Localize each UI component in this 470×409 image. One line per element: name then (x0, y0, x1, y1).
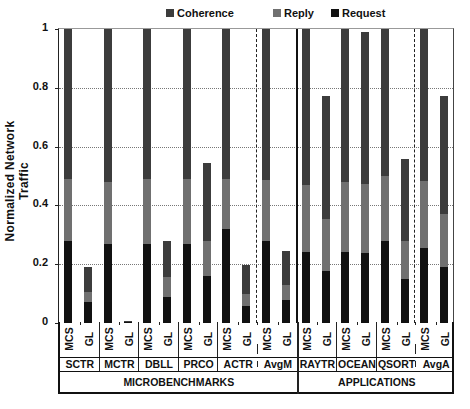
group-divider (415, 322, 416, 325)
segment-reply (341, 182, 349, 253)
segment-coherence (420, 29, 428, 181)
segment-coherence (341, 29, 349, 182)
segment-coherence (183, 29, 191, 179)
y-tick-label: 0 (22, 315, 48, 327)
segment-request (282, 300, 290, 323)
segment-reply (84, 292, 92, 302)
segment-coherence (401, 159, 409, 240)
segment-reply (440, 214, 448, 267)
bar-label-gl: GL (321, 322, 333, 356)
segment-reply (163, 277, 171, 296)
legend-item-coherence: Coherence (166, 6, 234, 20)
bar-actr-gl (242, 29, 250, 323)
bar-avga-gl (440, 29, 448, 323)
segment-request (64, 241, 72, 323)
bar-mctr-gl (124, 29, 132, 323)
bar-label-gl: GL (400, 322, 412, 356)
legend-swatch-icon (273, 9, 281, 17)
segment-request (440, 267, 448, 323)
y-tick-label: 0.6 (22, 139, 48, 151)
bar-tick (199, 322, 200, 325)
bar-raytr-mcs (302, 29, 310, 323)
group-label-raytr: RAYTR (298, 357, 338, 371)
legend-label: Coherence (177, 7, 234, 19)
bar-label-mcs: MCS (63, 322, 75, 356)
bar-qsort-mcs (381, 29, 389, 323)
segment-coherence (163, 241, 171, 278)
segment-reply (282, 285, 290, 301)
segment-request (242, 306, 250, 323)
segment-request (104, 244, 112, 323)
group-label-sctr: SCTR (60, 357, 100, 371)
bar-dbll-mcs (143, 29, 151, 323)
bar-label-mcs: MCS (142, 322, 154, 356)
y-axis-label: Normalized Network Traffic (3, 106, 31, 256)
segment-coherence (203, 163, 211, 241)
y-tick-label: 0.2 (22, 256, 48, 268)
group-label-avga: AvgA (416, 357, 456, 371)
bar-label-mcs: MCS (261, 322, 273, 356)
segment-reply (381, 176, 389, 241)
bar-label-gl: GL (241, 322, 253, 356)
bar-dbll-gl (163, 29, 171, 323)
table-rule (60, 357, 452, 358)
segment-coherence (381, 29, 389, 176)
bar-label-gl: GL (360, 322, 372, 356)
bar-tick (436, 322, 437, 325)
plot-area (58, 28, 454, 322)
y-tick-label: 0.8 (22, 80, 48, 92)
bar-tick (278, 322, 279, 325)
bar-tick (238, 322, 239, 325)
segment-coherence (440, 96, 448, 214)
segment-reply (64, 179, 72, 241)
category-separator (296, 29, 298, 323)
bar-prco-gl (203, 29, 211, 323)
segment-request (222, 229, 230, 323)
segment-request (262, 241, 270, 323)
bar-label-gl: GL (202, 322, 214, 356)
bar-mctr-mcs (104, 29, 112, 323)
segment-coherence (84, 267, 92, 292)
bar-tick (317, 322, 318, 325)
segment-request (341, 252, 349, 323)
bar-tick (80, 322, 81, 325)
group-label-avgm: AvgM (258, 357, 298, 371)
y-tick-label: 0.4 (22, 197, 48, 209)
bar-actr-mcs (222, 29, 230, 323)
bar-sctr-mcs (64, 29, 72, 323)
group-divider (415, 344, 416, 354)
segment-coherence (302, 29, 310, 185)
segment-request (322, 271, 330, 323)
group-label-dbll: DBLL (139, 357, 179, 371)
segment-reply (104, 182, 112, 244)
dashed-separator (414, 29, 415, 323)
dashed-separator (256, 29, 257, 323)
group-label-actr: ACTR (218, 357, 258, 371)
bar-sctr-gl (84, 29, 92, 323)
bar-ocean-gl (361, 29, 369, 323)
segment-request (163, 297, 171, 323)
group-divider (257, 322, 258, 325)
group-label-qsort: QSORT (377, 357, 417, 371)
category-label-microbenchmarks: MICROBENCHMARKS (60, 371, 298, 392)
bar-tick (119, 322, 120, 325)
segment-reply (401, 241, 409, 279)
bar-label-gl: GL (83, 322, 95, 356)
segment-request (420, 248, 428, 323)
bar-label-gl: GL (281, 322, 293, 356)
segment-reply (420, 181, 428, 248)
legend-label: Request (342, 7, 385, 19)
bar-label-mcs: MCS (380, 322, 392, 356)
group-label-mctr: MCTR (100, 357, 140, 371)
bar-ocean-mcs (341, 29, 349, 323)
segment-request (203, 276, 211, 323)
bar-tick (159, 322, 160, 325)
bar-label-mcs: MCS (419, 322, 431, 356)
segment-request (84, 302, 92, 323)
segment-request (143, 244, 151, 323)
bar-label-mcs: MCS (221, 322, 233, 356)
bar-label-mcs: MCS (301, 322, 313, 356)
group-divider (257, 344, 258, 354)
legend-item-request: Request (331, 6, 385, 20)
bar-qsort-gl (401, 29, 409, 323)
